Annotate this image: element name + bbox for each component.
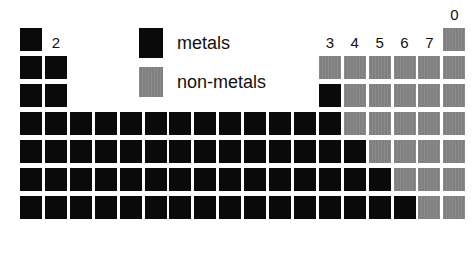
periodic-cell-period-7-group-13	[319, 196, 341, 219]
periodic-cell-period-4-group-9	[219, 112, 241, 135]
periodic-cell-period-7-group-11	[269, 196, 291, 219]
periodic-cell-period-4-group-11	[269, 112, 291, 135]
periodic-cell-period-6-group-5	[120, 168, 142, 191]
periodic-cell-period-5-group-1	[20, 140, 42, 163]
periodic-cell-period-5-group-18	[443, 140, 465, 163]
periodic-cell-period-4-group-4	[95, 112, 117, 135]
periodic-cell-period-2-group-1	[20, 56, 42, 79]
periodic-cell-period-5-group-4	[95, 140, 117, 163]
periodic-cell-period-2-group-17	[418, 56, 440, 79]
periodic-cell-period-5-group-12	[294, 140, 316, 163]
periodic-cell-period-7-group-2	[45, 196, 67, 219]
periodic-cell-period-2-group-14	[344, 56, 366, 79]
periodic-cell-period-4-group-7	[169, 112, 191, 135]
periodic-cell-period-6-group-1	[20, 168, 42, 191]
periodic-cell-period-4-group-18	[443, 112, 465, 135]
periodic-cell-period-5-group-14	[344, 140, 366, 163]
periodic-cell-period-4-group-16	[394, 112, 416, 135]
periodic-cell-period-2-group-16	[394, 56, 416, 79]
periodic-cell-period-6-group-8	[194, 168, 216, 191]
periodic-cell-period-6-group-18	[443, 168, 465, 191]
periodic-cell-period-7-group-4	[95, 196, 117, 219]
periodic-cell-period-4-group-13	[319, 112, 341, 135]
periodic-cell-period-7-group-3	[70, 196, 92, 219]
periodic-cell-period-5-group-7	[169, 140, 191, 163]
periodic-cell-period-6-group-12	[294, 168, 316, 191]
periodic-cell-period-6-group-11	[269, 168, 291, 191]
periodic-cell-period-2-group-13	[319, 56, 341, 79]
periodic-cell-period-7-group-5	[120, 196, 142, 219]
periodic-cell-period-7-group-18	[443, 196, 465, 219]
periodic-cell-period-5-group-15	[369, 140, 391, 163]
periodic-cell-period-6-group-10	[244, 168, 266, 191]
periodic-cell-period-6-group-15	[369, 168, 391, 191]
periodic-cell-period-4-group-3	[70, 112, 92, 135]
periodic-cell-period-7-group-12	[294, 196, 316, 219]
periodic-cell-period-7-group-6	[145, 196, 167, 219]
periodic-cell-period-6-group-7	[169, 168, 191, 191]
periodic-cell-period-3-group-1	[20, 84, 42, 107]
periodic-cell-period-6-group-2	[45, 168, 67, 191]
periodic-cell-period-7-group-17	[418, 196, 440, 219]
periodic-cell-period-3-group-17	[418, 84, 440, 107]
periodic-table-figure: 12345670 metals non-metals	[0, 0, 473, 265]
periodic-cell-period-5-group-16	[394, 140, 416, 163]
legend-label-non-metals: non-metals	[177, 71, 266, 93]
legend: metals non-metals	[139, 28, 319, 94]
periodic-cell-period-5-group-10	[244, 140, 266, 163]
periodic-cell-period-5-group-3	[70, 140, 92, 163]
periodic-cell-period-6-group-13	[319, 168, 341, 191]
periodic-cell-period-4-group-8	[194, 112, 216, 135]
periodic-cell-period-7-group-15	[369, 196, 391, 219]
legend-swatch-non-metals-icon	[139, 67, 163, 97]
periodic-cell-period-7-group-1	[20, 196, 42, 219]
legend-swatch-metals-icon	[139, 28, 163, 58]
periodic-cell-period-1-group-18	[443, 28, 465, 51]
periodic-cell-period-7-group-16	[394, 196, 416, 219]
periodic-cell-period-5-group-13	[319, 140, 341, 163]
periodic-cell-period-2-group-18	[443, 56, 465, 79]
periodic-cell-period-5-group-11	[269, 140, 291, 163]
periodic-cell-period-7-group-14	[344, 196, 366, 219]
periodic-cell-period-5-group-8	[194, 140, 216, 163]
periodic-cell-period-7-group-9	[219, 196, 241, 219]
periodic-cell-period-4-group-17	[418, 112, 440, 135]
periodic-cell-period-6-group-14	[344, 168, 366, 191]
periodic-cell-period-4-group-5	[120, 112, 142, 135]
periodic-cell-period-6-group-9	[219, 168, 241, 191]
periodic-cell-period-4-group-15	[369, 112, 391, 135]
periodic-cell-period-3-group-14	[344, 84, 366, 107]
periodic-cell-period-7-group-10	[244, 196, 266, 219]
periodic-cell-period-6-group-17	[418, 168, 440, 191]
periodic-cell-period-4-group-1	[20, 112, 42, 135]
periodic-cell-period-2-group-15	[369, 56, 391, 79]
periodic-cell-period-3-group-16	[394, 84, 416, 107]
periodic-cell-period-3-group-18	[443, 84, 465, 107]
periodic-cell-period-4-group-2	[45, 112, 67, 135]
periodic-cell-period-4-group-12	[294, 112, 316, 135]
periodic-cell-period-7-group-7	[169, 196, 191, 219]
periodic-cell-period-6-group-3	[70, 168, 92, 191]
periodic-cell-period-3-group-2	[45, 84, 67, 107]
periodic-cell-period-1-group-1	[20, 28, 42, 51]
group-label-7: 7	[414, 35, 444, 50]
legend-label-metals: metals	[177, 32, 230, 54]
periodic-cell-period-5-group-5	[120, 140, 142, 163]
periodic-cell-period-5-group-6	[145, 140, 167, 163]
periodic-cell-period-5-group-9	[219, 140, 241, 163]
periodic-cell-period-3-group-13	[319, 84, 341, 107]
periodic-cell-period-7-group-8	[194, 196, 216, 219]
group-label-0: 0	[439, 7, 469, 22]
periodic-cell-period-6-group-16	[394, 168, 416, 191]
periodic-cell-period-6-group-6	[145, 168, 167, 191]
periodic-cell-period-5-group-2	[45, 140, 67, 163]
periodic-cell-period-6-group-4	[95, 168, 117, 191]
periodic-cell-period-4-group-6	[145, 112, 167, 135]
group-label-2: 2	[41, 35, 71, 50]
periodic-cell-period-4-group-10	[244, 112, 266, 135]
periodic-cell-period-3-group-15	[369, 84, 391, 107]
periodic-cell-period-5-group-17	[418, 140, 440, 163]
periodic-cell-period-2-group-2	[45, 56, 67, 79]
periodic-cell-period-4-group-14	[344, 112, 366, 135]
